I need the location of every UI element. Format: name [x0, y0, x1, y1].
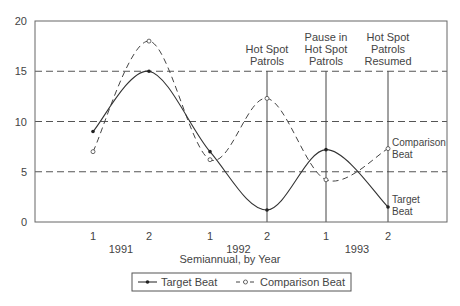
target-marker — [91, 130, 95, 134]
y-tick-label: 5 — [21, 166, 27, 178]
legend: Target BeatComparison Beat — [132, 273, 351, 291]
annotation-label: Resumed — [364, 55, 411, 67]
comparison-marker — [208, 158, 212, 162]
comparison-marker — [265, 96, 269, 100]
annotation-label: Hot Spot — [367, 31, 410, 43]
annotation-label: Patrols — [250, 55, 285, 67]
annotation-lines — [267, 71, 388, 222]
comparison-marker — [91, 150, 95, 154]
x-axis: 121212199119921993 — [90, 230, 391, 255]
y-axis: 05101520 — [15, 15, 27, 228]
target-marker — [324, 148, 328, 152]
y-tick-label: 20 — [15, 15, 27, 27]
comparison-beat-line — [93, 41, 388, 181]
year-label: 1993 — [345, 243, 369, 255]
legend-target-label: Target Beat — [161, 276, 217, 288]
y-tick-label: 0 — [21, 216, 27, 228]
annotation-label: Hot Spot — [305, 43, 348, 55]
comparison-marker — [147, 39, 151, 43]
x-tick-label: 2 — [146, 230, 152, 242]
legend-comparison-marker — [244, 280, 248, 284]
grid-lines — [35, 71, 447, 172]
legend-target-marker — [146, 280, 150, 284]
x-tick-label: 1 — [323, 230, 329, 242]
annotation-label: Hot Spot — [246, 43, 289, 55]
x-tick-label: 2 — [264, 230, 270, 242]
data-series — [91, 39, 390, 212]
x-tick-label: 1 — [207, 230, 213, 242]
comparison-end-label: Comparison — [392, 137, 446, 148]
annotation-label: Patrols — [309, 55, 344, 67]
x-tick-label: 2 — [385, 230, 391, 242]
target-beat-line — [93, 71, 388, 210]
y-tick-label: 10 — [15, 116, 27, 128]
comparison-marker — [324, 178, 328, 182]
target-end-label: Beat — [392, 206, 413, 217]
y-tick-label: 15 — [15, 65, 27, 77]
x-axis-title: Semiannual, by Year — [180, 253, 281, 265]
year-label: 1991 — [109, 243, 133, 255]
target-marker — [265, 208, 269, 212]
target-end-label: Target — [392, 194, 420, 205]
target-marker — [386, 205, 390, 209]
comparison-marker — [386, 147, 390, 151]
annotation-label: Pause in — [305, 31, 348, 43]
annotation-label: Patrols — [371, 43, 406, 55]
target-marker — [208, 150, 212, 154]
legend-comparison-label: Comparison Beat — [260, 276, 345, 288]
line-chart: 05101520 121212199119921993 Hot SpotPatr… — [0, 0, 460, 306]
x-tick-label: 1 — [90, 230, 96, 242]
target-marker — [147, 69, 151, 73]
comparison-end-label: Beat — [392, 149, 413, 160]
annotations: Hot SpotPatrolsPause inHot SpotPatrolsHo… — [246, 31, 446, 217]
